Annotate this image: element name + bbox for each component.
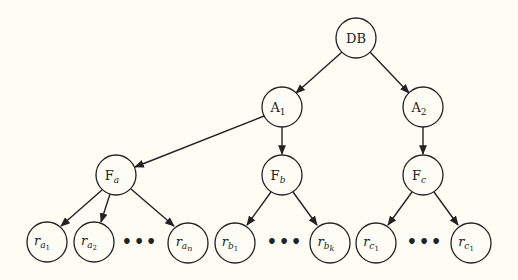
edge-db-a1 — [296, 52, 342, 93]
node-a1: A1 — [262, 87, 302, 127]
svg-text:DB: DB — [346, 31, 366, 46]
edge-fc-rc1 — [388, 192, 412, 225]
node-rbk: rbk — [310, 223, 350, 263]
node-rb1: rb1 — [215, 223, 255, 263]
edges — [61, 52, 458, 226]
edge-fb-rb1 — [247, 192, 271, 225]
edge-fa-ran — [131, 189, 174, 226]
node-rc1: rc1 — [356, 223, 396, 263]
edge-a1-fa — [135, 116, 264, 167]
edge-fa-ra1 — [61, 190, 102, 226]
node-ra2: ra2 — [74, 222, 114, 262]
edge-db-a2 — [370, 52, 409, 93]
node-fb: Fb — [262, 155, 302, 195]
ellipsis-b: ••• — [267, 232, 304, 251]
node-ran: ran — [168, 223, 208, 263]
edge-fc-rc1b — [434, 192, 458, 225]
tree-diagram: DB A1 A2 Fa Fb Fc ra1 ra2 ••• ran rb1 — [0, 0, 518, 280]
node-db: DB — [336, 18, 376, 58]
edge-fa-ra2 — [101, 194, 110, 222]
ellipsis-a: ••• — [122, 232, 159, 251]
node-a2: A2 — [403, 87, 443, 127]
node-rc1b: rc1 — [451, 223, 491, 263]
ellipsis-c: ••• — [407, 232, 444, 251]
node-ra1: ra1 — [27, 222, 67, 262]
edge-fb-rbk — [293, 192, 317, 225]
node-fa: Fa — [96, 155, 136, 195]
node-fc: Fc — [403, 155, 443, 195]
